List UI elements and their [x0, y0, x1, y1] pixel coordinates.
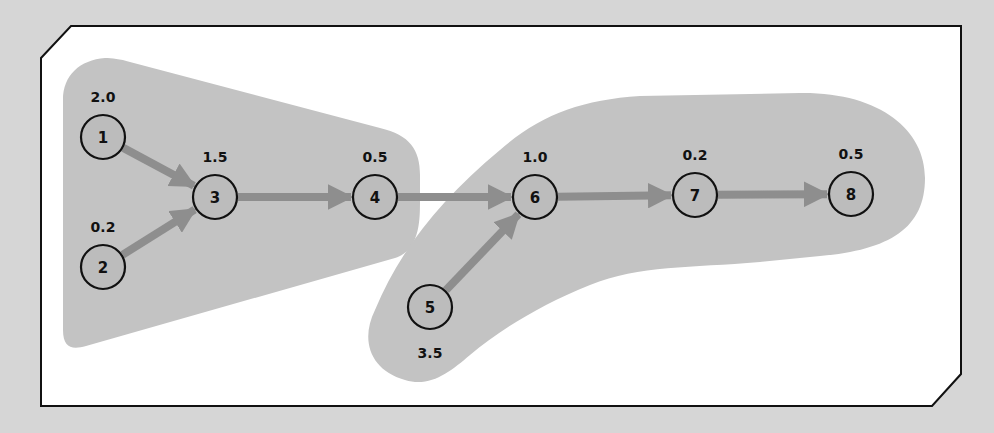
node-weight: 0.5	[839, 146, 864, 162]
edge-6-to-7	[558, 195, 671, 196]
node-weight: 0.2	[91, 219, 116, 235]
node-label: 8	[846, 186, 856, 204]
node-weight: 1.5	[203, 149, 228, 165]
node-weight: 3.5	[418, 345, 443, 361]
node-weight: 0.2	[683, 147, 708, 163]
node-label: 7	[690, 187, 700, 205]
node-label: 3	[210, 189, 220, 207]
edge-7-to-8	[718, 194, 827, 195]
node-label: 1	[98, 129, 108, 147]
node-weight: 0.5	[363, 149, 388, 165]
node-label: 5	[425, 299, 435, 317]
node-label: 6	[530, 189, 540, 207]
node-weight: 2.0	[91, 89, 116, 105]
node-label: 2	[98, 259, 108, 277]
node-label: 4	[370, 189, 380, 207]
node-weight: 1.0	[523, 149, 548, 165]
graph-canvas: 12.020.231.540.553.561.070.280.5	[0, 0, 994, 433]
